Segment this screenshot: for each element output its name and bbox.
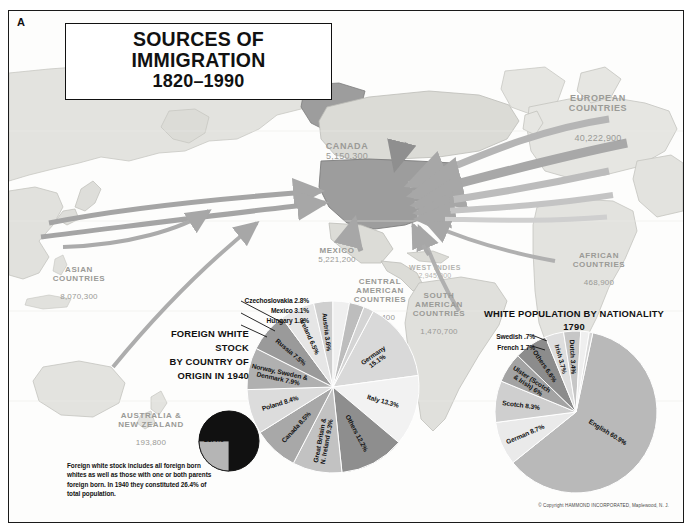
callout-mexico: Mexico 3.1% [159,307,309,314]
pie-right-label-layer: English 60.9%German 8.7%Scotch 8.3%Ulste… [493,329,659,495]
map-label-europe-total: 40,222,900 [549,133,647,143]
callout-hungary: Hungary 1.9% [159,317,309,324]
pie-left-callout-group: Czechoslovakia 2.8% Mexico 3.1% Hungary … [159,297,309,324]
foreign-white-stock-title: FOREIGN WHITE STOCK BY COUNTRY OF ORIGIN… [153,327,249,383]
fws-title-line-2: BY COUNTRY OF [153,355,249,369]
united-states-landmass [319,159,461,229]
map-label-australia-nz-value: 193,800 [101,439,201,448]
pie-slice-label: German 8.7% [505,422,545,444]
map-label-australia-nz-name: AUSTRALIA & NEW ZEALAND [101,412,201,430]
pie-right-leader-lines [531,333,561,359]
page-subtitle: 1820–1990 [74,71,323,92]
callout-czechoslovakia: Czechoslovakia 2.8% [159,297,309,304]
pie-slice-label: Poland 8.4% [261,394,299,412]
west-indies-islands [407,251,449,263]
wp-title-line-1: WHITE POPULATION BY NATIONALITY [471,307,677,320]
map-label-asia-value: 8,070,300 [37,293,121,302]
copyright-notice: © Copyright HAMMOND INCORPORATED, Maplew… [538,503,669,508]
pie-right-callout-group: Swedish .7% French 1.7% [449,333,535,351]
pie-slice-label: English 60.9% [588,417,628,446]
page-title: SOURCES OF IMMIGRATION [74,29,323,71]
map-label-mexico: MEXICO 5,221,200 [297,247,377,265]
pie-slice-label: Dutch 3.4% [569,340,578,375]
map-label-africa: AFRICAN COUNTRIES 468,900 [557,243,641,297]
map-label-africa-value: 468,900 [557,279,641,288]
pie-slice-label: Italy 13.3% [366,393,399,409]
pie-slice-label: Germany 15.1% [353,339,398,377]
title-box: SOURCES OF IMMIGRATION 1820–1990 [65,23,332,100]
callout-swedish: Swedish .7% [449,333,535,340]
immigration-map-plate: A SOURCES OF IMMIGRATION 1820–1990 CANAD… [0,0,690,531]
map-frame: A SOURCES OF IMMIGRATION 1820–1990 CANAD… [8,10,684,523]
callout-french: French 1.7% [449,344,535,351]
fws-title-line-1: FOREIGN WHITE STOCK [153,327,249,355]
map-label-europe-name: EUROPEAN COUNTRIES [549,93,647,113]
map-label-australia-nz: AUSTRALIA & NEW ZEALAND 193,800 [101,403,201,457]
wp-title-line-2: 1790 [471,320,677,333]
map-label-canada-value: 5,150,300 [301,151,393,161]
map-label-mexico-value: 5,221,200 [297,256,377,265]
map-label-europe: EUROPEAN COUNTRIES 468,900 40,222,900 [549,83,647,154]
pie-slice-label: Great Britain & N. Ireland 9.3% [312,417,334,464]
pie-slice-label: Others 12.2% [345,413,370,452]
map-label-africa-name: AFRICAN COUNTRIES [557,252,641,270]
white-population-title: WHITE POPULATION BY NATIONALITY 1790 [471,307,677,334]
fws-title-line-3: ORIGIN IN 1940 [153,369,249,383]
japan-islands [75,181,101,211]
map-label-asia-name: ASIAN COUNTRIES [37,266,121,284]
map-label-canada-name: CANADA [301,141,393,151]
pie-slice-label: Scotch 8.3% [502,399,540,411]
foreign-white-stock-footnote: Foreign white stock includes all foreign… [67,461,219,498]
middle-east-landmass [633,155,683,217]
pie-slice-label: Canada 8.5% [280,410,312,444]
map-label-canada: CANADA 5,150,300 [301,141,393,161]
map-label-asia: ASIAN COUNTRIES 8,070,300 [37,257,121,311]
pie-small-label: 26.4% [204,436,223,443]
pie-slice-label: Norway, Sweden & Denmark 7.9% [250,362,309,388]
pie-chart-white-population: English 60.9%German 8.7%Scotch 8.3%Ulste… [493,329,659,495]
